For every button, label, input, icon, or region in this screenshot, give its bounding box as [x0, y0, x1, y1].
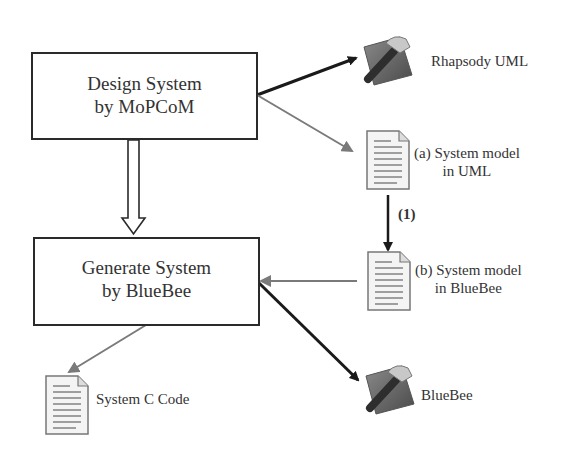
- generate-box-line1: Generate System: [82, 256, 211, 279]
- arrow-design-to-rhapsody: [257, 58, 356, 95]
- flow-arrow-design-to-generate: [122, 140, 145, 234]
- rhapsody-label: Rhapsody UML: [431, 52, 528, 70]
- model-bluebee-document-icon: [368, 252, 410, 310]
- arrow-generate-to-bluebee: [259, 283, 358, 380]
- model-bluebee-label-line1: (b) System model: [415, 261, 522, 279]
- model-bluebee-label: (b) System model in BlueBee: [415, 261, 522, 297]
- arrow-design-to-model-uml: [257, 95, 352, 151]
- generate-system-box: Generate System by BlueBee: [33, 237, 260, 326]
- model-uml-label-line2: in UML: [414, 162, 520, 180]
- model-bluebee-label-line2: in BlueBee: [415, 279, 522, 297]
- model-uml-label: (a) System model in UML: [414, 144, 520, 180]
- arrow-generate-to-systemc: [69, 325, 146, 372]
- bluebee-label: BlueBee: [421, 386, 473, 404]
- generate-box-line2: by BlueBee: [102, 279, 191, 302]
- bluebee-tool-icon: [366, 366, 414, 414]
- design-system-box: Design System by MoPCoM: [31, 52, 258, 140]
- design-box-line1: Design System: [87, 72, 202, 95]
- step-label: (1): [398, 205, 416, 223]
- model-uml-document-icon: [367, 131, 409, 189]
- systemc-document-icon: [46, 376, 88, 434]
- rhapsody-tool-icon: [364, 37, 412, 85]
- systemc-label: System C Code: [96, 390, 189, 408]
- model-uml-label-line1: (a) System model: [414, 144, 520, 162]
- design-box-line2: by MoPCoM: [95, 95, 195, 118]
